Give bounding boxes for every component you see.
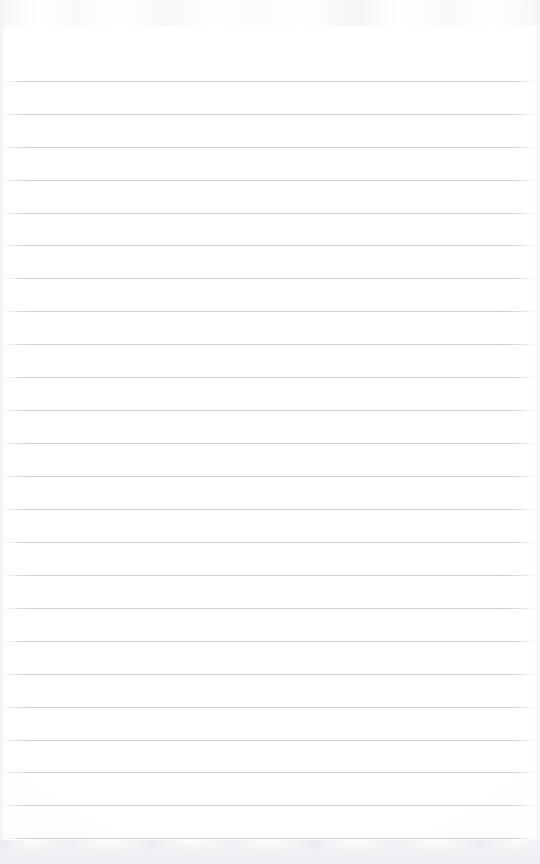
- rule-line: [3, 772, 534, 773]
- rule-line: [3, 344, 534, 345]
- rule-line: [3, 740, 534, 741]
- ruled-lines-layer: [0, 0, 540, 864]
- rule-line: [3, 213, 534, 214]
- rule-line: [3, 575, 534, 576]
- rule-line: [3, 707, 534, 708]
- rule-line: [3, 81, 534, 82]
- rule-line: [3, 114, 534, 115]
- rule-line: [3, 805, 534, 806]
- notepad-page: [0, 0, 540, 864]
- rule-line: [3, 278, 534, 279]
- rule-line: [3, 838, 534, 839]
- rule-line: [3, 509, 534, 510]
- rule-line: [3, 476, 534, 477]
- rule-line: [3, 377, 534, 378]
- rule-line: [3, 147, 534, 148]
- rule-line: [3, 674, 534, 675]
- rule-line: [3, 443, 534, 444]
- rule-line: [3, 608, 534, 609]
- rule-line: [3, 245, 534, 246]
- rule-line: [3, 542, 534, 543]
- rule-line: [3, 311, 534, 312]
- rule-line: [3, 410, 534, 411]
- rule-line: [3, 641, 534, 642]
- rule-line: [3, 180, 534, 181]
